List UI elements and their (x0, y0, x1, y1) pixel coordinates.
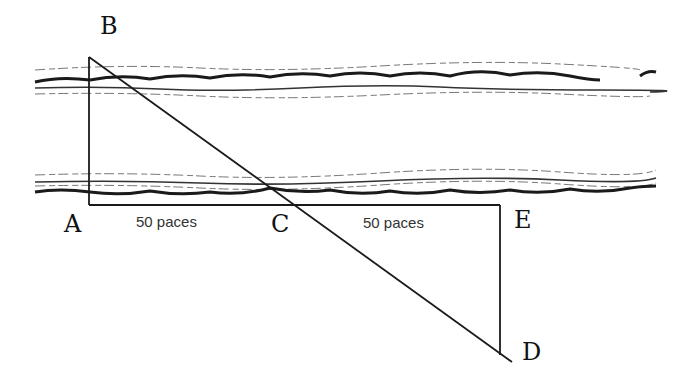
label-point-a: A (63, 210, 82, 238)
label-point-b: B (100, 12, 118, 40)
label-point-e: E (514, 206, 532, 234)
label-distance-ac: 50 paces (136, 213, 197, 230)
label-point-d: D (522, 338, 541, 366)
segment-BD (89, 57, 512, 362)
label-distance-ce: 50 paces (363, 214, 424, 231)
label-point-c: C (271, 210, 289, 238)
diagram-canvas: B A C E D 50 paces 50 paces (0, 0, 691, 380)
triangle-lines (89, 57, 512, 362)
near-river-bank (35, 169, 656, 194)
far-river-bank (35, 62, 667, 97)
